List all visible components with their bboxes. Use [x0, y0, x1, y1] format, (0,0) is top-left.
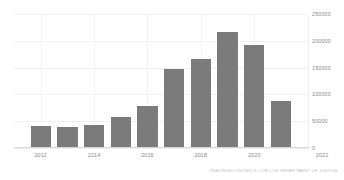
cropped-title-strip [0, 0, 344, 6]
x-axis-tick-label: 2014 [88, 152, 101, 158]
bar-series [14, 14, 309, 148]
footer-attribution: TRADINGECONOMICS.COM | US DEPARTMENT OF … [209, 168, 338, 173]
x-axis-tick-label: 2016 [141, 152, 154, 158]
y-axis-tick-label: 50000 [312, 118, 328, 124]
x-axis-labels: 201220142016201820202022 [0, 152, 344, 162]
y-axis-tick-label: 150000 [312, 65, 331, 71]
y-axis-tick-label: 200000 [312, 38, 331, 44]
bar[interactable] [164, 69, 184, 148]
bar[interactable] [217, 32, 237, 148]
bar[interactable] [137, 106, 157, 148]
x-axis-tick-label: 2018 [195, 152, 208, 158]
bar[interactable] [191, 59, 211, 148]
y-axis-tick-label: 250000 [312, 11, 331, 17]
bar[interactable] [111, 117, 131, 148]
plot-area [14, 14, 309, 148]
footer-source-org: US DEPARTMENT OF JUSTICE [272, 168, 338, 173]
bar[interactable] [244, 45, 264, 148]
bar[interactable] [57, 127, 77, 148]
chart-container: 050000100000150000200000250000 201220142… [0, 0, 344, 180]
x-axis-tick-label: 2012 [34, 152, 47, 158]
x-axis-line [14, 147, 309, 148]
bar[interactable] [31, 126, 51, 148]
x-axis-tick-label: 2020 [248, 152, 261, 158]
y-axis-tick-label: 100000 [312, 91, 331, 97]
footer-source-site: TRADINGECONOMICS.COM [209, 168, 268, 173]
bar[interactable] [271, 101, 291, 148]
x-axis-tick-label: 2022 [316, 152, 329, 158]
footer-separator: | [270, 168, 271, 173]
gridline-horizontal [14, 148, 309, 149]
bar[interactable] [84, 125, 104, 148]
y-axis-tick-label: 0 [312, 145, 315, 151]
